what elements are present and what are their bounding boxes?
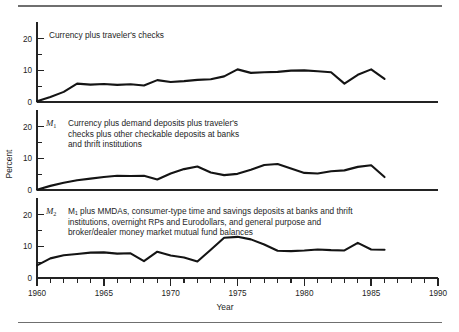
y-tick-label: 0	[27, 186, 32, 195]
panel-m1-note-line: checks plus other checkable deposits at …	[68, 129, 239, 139]
y-tick-label: 20	[23, 211, 33, 220]
panel-m1-note-line: Currency plus demand deposits plus trave…	[68, 118, 238, 128]
panel-currency: 01020Currency plus traveler's checks	[23, 22, 438, 107]
panel-m2: 01020M2M₁ plus MMDAs, consumer-type time…	[23, 198, 438, 283]
x-axis-title: Year	[217, 302, 234, 312]
x-tick-label: 1970	[162, 289, 181, 298]
series-line-m2	[37, 237, 385, 266]
monetary-aggregates-line-chart: 01020Currency plus traveler's checks0102…	[0, 14, 459, 314]
y-tick-label: 0	[27, 274, 32, 283]
panel-m2-note-line: broker/dealer money market mutual fund b…	[68, 227, 253, 237]
panel-m1: 01020M1Currency plus demand deposits plu…	[23, 110, 438, 195]
x-tick-label: 1975	[228, 289, 247, 298]
panel-m2-symbol: M2	[45, 206, 56, 217]
y-tick-label: 10	[23, 66, 33, 75]
y-tick-label: 0	[27, 98, 32, 107]
y-axis-title: Percent	[4, 149, 14, 179]
x-tick-label: 1985	[362, 289, 381, 298]
series-line-currency-plus-traveler-s-checks	[37, 69, 385, 101]
panel-m2-note-line: M₁ plus MMDAs, consumer-type time and sa…	[68, 206, 353, 216]
x-tick-label: 1990	[429, 289, 448, 298]
series-line-m1	[37, 164, 385, 190]
panel-m2-note-line: institutions, overnight RPs and Eurodoll…	[68, 217, 322, 227]
panel-currency-note-line: Currency plus traveler's checks	[49, 30, 164, 40]
x-tick-label: 1965	[95, 289, 114, 298]
figure-container: 01020Currency plus traveler's checks0102…	[0, 0, 459, 332]
x-tick-label: 1960	[28, 289, 47, 298]
y-tick-label: 10	[23, 242, 33, 251]
panel-m1-note-line: and thrift institutions	[68, 139, 142, 149]
chart-plot-area: 01020Currency plus traveler's checks0102…	[0, 14, 459, 314]
y-tick-label: 10	[23, 154, 33, 163]
y-tick-label: 20	[23, 35, 33, 44]
y-tick-label: 20	[23, 123, 33, 132]
x-axis-group: 1960196519701975198019851990	[28, 278, 448, 298]
figure-top-rule	[18, 5, 442, 7]
x-tick-label: 1980	[295, 289, 314, 298]
panels-group: 01020Currency plus traveler's checks0102…	[23, 22, 438, 283]
panel-m1-symbol: M1	[45, 118, 56, 129]
figure-bottom-rule	[18, 322, 442, 323]
